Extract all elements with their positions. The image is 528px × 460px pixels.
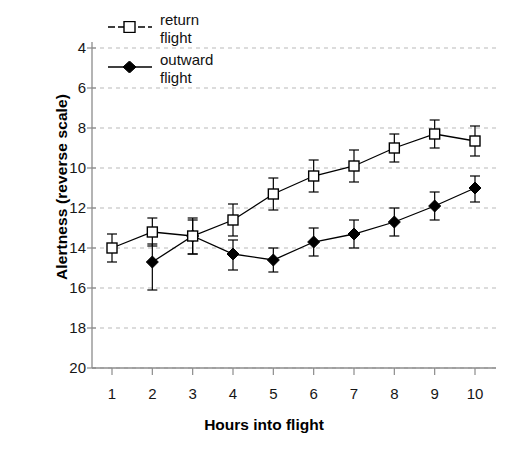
x-tick-label: 2 (140, 386, 164, 401)
y-tick-label: 16 (58, 280, 86, 295)
x-tick-label: 8 (382, 386, 406, 401)
legend-label-return-flight: return flight (160, 11, 199, 47)
open-square-icon (108, 21, 156, 33)
x-axis-title: Hours into flight (0, 416, 528, 434)
y-tick-label: 20 (58, 360, 86, 375)
x-tick-label: 5 (261, 386, 285, 401)
series-return-flight (107, 120, 480, 262)
chart-figure: Alertness (reverse scale) 46810121416182… (0, 0, 528, 460)
y-tick-label: 10 (58, 160, 86, 175)
y-tick-label: 18 (58, 320, 86, 335)
y-tick-label: 14 (58, 240, 86, 255)
filled-diamond-icon (108, 61, 156, 73)
x-tick-label: 6 (302, 386, 326, 401)
x-tick-label: 10 (463, 386, 487, 401)
x-tick-label: 7 (342, 386, 366, 401)
x-tick-label: 4 (221, 386, 245, 401)
x-ticks (112, 368, 475, 375)
y-tick-label: 6 (58, 80, 86, 95)
y-tick-label: 4 (58, 40, 86, 55)
legend-label-outward-flight: outward flight (160, 51, 213, 87)
y-tick-label: 12 (58, 200, 86, 215)
x-tick-label: 1 (100, 386, 124, 401)
x-tick-label: 9 (423, 386, 447, 401)
y-tick-label: 8 (58, 120, 86, 135)
x-tick-label: 3 (181, 386, 205, 401)
